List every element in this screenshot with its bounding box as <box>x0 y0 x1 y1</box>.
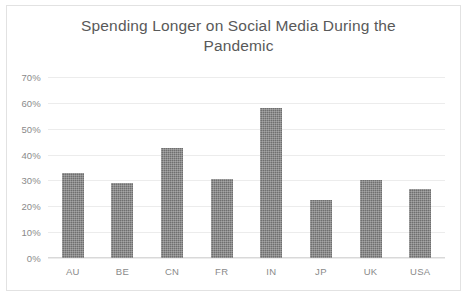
bar-cn[interactable] <box>161 148 183 258</box>
chart-title: Spending Longer on Social Media During t… <box>40 16 437 56</box>
bar-in[interactable] <box>260 108 282 258</box>
chart-figure: Spending Longer on Social Media During t… <box>0 0 467 297</box>
bar-slot: UK <box>346 77 396 258</box>
bar-slot: JP <box>296 77 346 258</box>
x-axis-tick-label-uk: UK <box>364 266 378 277</box>
y-axis-tick-label: 30% <box>21 175 41 186</box>
bar-jp[interactable] <box>310 200 332 258</box>
y-axis-tick-label: 10% <box>21 227 41 238</box>
y-axis-tick-label: 20% <box>21 201 41 212</box>
bars-group: AUBECNFRINJPUKUSA <box>48 77 445 258</box>
bar-uk[interactable] <box>360 180 382 258</box>
x-axis-tick-label-jp: JP <box>315 266 327 277</box>
bar-slot: BE <box>98 77 148 258</box>
bar-slot: FR <box>197 77 247 258</box>
bar-be[interactable] <box>111 183 133 258</box>
bar-slot: CN <box>147 77 197 258</box>
bar-slot: AU <box>48 77 98 258</box>
y-axis-tick-label: 70% <box>21 72 41 83</box>
bar-fr[interactable] <box>211 179 233 258</box>
x-axis-tick-label-au: AU <box>66 266 80 277</box>
x-axis-tick-label-usa: USA <box>410 266 430 277</box>
y-axis-tick-label: 40% <box>21 149 41 160</box>
bar-au[interactable] <box>62 173 84 258</box>
bar-usa[interactable] <box>409 189 431 258</box>
y-axis-tick-label: 50% <box>21 123 41 134</box>
x-axis-tick-label-cn: CN <box>165 266 179 277</box>
y-axis-tick-label: 60% <box>21 97 41 108</box>
x-axis-tick-label-fr: FR <box>215 266 228 277</box>
y-axis-tick-label: 0% <box>27 253 41 264</box>
plot-area: 70%60%50%40%30%20%10%0% AUBECNFRINJPUKUS… <box>48 77 445 258</box>
chart-title-line-2: Pandemic <box>203 37 273 54</box>
x-axis-tick-label-be: BE <box>116 266 129 277</box>
bar-slot: USA <box>395 77 445 258</box>
x-axis-tick-label-in: IN <box>266 266 276 277</box>
bar-slot: IN <box>247 77 297 258</box>
gridline <box>48 258 445 259</box>
chart-title-line-1: Spending Longer on Social Media During t… <box>81 17 396 34</box>
